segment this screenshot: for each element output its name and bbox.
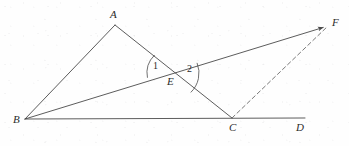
geometry-figure: A B C D E F 1 2: [0, 0, 349, 146]
point-label-c: C: [229, 122, 236, 133]
segment-a-c: [115, 25, 232, 118]
segments-group: [25, 25, 328, 119]
point-label-f: F: [332, 17, 339, 28]
angle-label-1: 1: [153, 61, 158, 71]
point-label-d: D: [296, 122, 304, 133]
point-label-b: B: [13, 114, 20, 125]
point-label-a: A: [110, 9, 117, 20]
point-label-e: E: [167, 76, 174, 87]
angle-label-2: 2: [187, 64, 192, 74]
segment-b-d: [25, 118, 305, 119]
segment-c-f-dashed: [232, 26, 328, 118]
